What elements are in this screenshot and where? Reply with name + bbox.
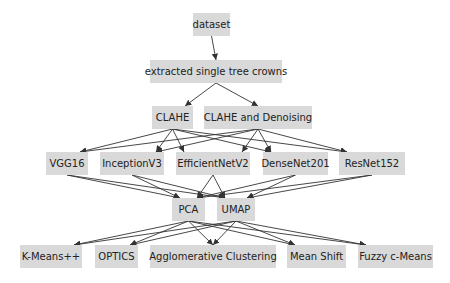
node-inceptionv3: InceptionV3 bbox=[100, 152, 164, 175]
edges-layer bbox=[0, 0, 450, 283]
node-umap: UMAP bbox=[217, 198, 255, 221]
node-clahe-dn: CLAHE and Denoising bbox=[204, 106, 312, 129]
node-optics: OPTICS bbox=[95, 245, 138, 268]
edge-clahe_dn-to-vgg16 bbox=[80, 129, 258, 152]
node-resnet152: ResNet152 bbox=[339, 152, 405, 175]
edge-clahe-to-densenet201 bbox=[173, 129, 272, 152]
node-clahe: CLAHE bbox=[152, 106, 193, 129]
edge-umap-to-meanshift bbox=[236, 221, 295, 245]
edge-umap-to-fuzzy bbox=[236, 221, 366, 245]
node-agglo: Agglomerative Clustering bbox=[150, 245, 276, 268]
node-efficientnetv2: EfficientNetV2 bbox=[176, 152, 250, 175]
node-dataset: dataset bbox=[193, 13, 230, 36]
edge-extracted-to-clahe bbox=[185, 83, 216, 106]
edge-densenet201-to-umap bbox=[247, 175, 296, 198]
node-vgg16: VGG16 bbox=[46, 152, 88, 175]
edge-clahe_dn-to-resnet152 bbox=[258, 129, 347, 152]
node-densenet201: DenseNet201 bbox=[263, 152, 328, 175]
edge-umap-to-kmeans bbox=[74, 221, 236, 245]
edge-extracted-to-clahe_dn bbox=[216, 83, 258, 106]
edge-inceptionv3-to-pca bbox=[132, 175, 180, 198]
edge-pca-to-kmeans bbox=[74, 221, 189, 245]
edge-umap-to-optics bbox=[130, 221, 236, 245]
edge-pca-to-optics bbox=[130, 221, 189, 245]
edge-resnet152-to-pca bbox=[197, 175, 372, 198]
node-kmeans: K-Means++ bbox=[20, 245, 82, 268]
node-pca: PCA bbox=[172, 198, 205, 221]
node-meanshift: Mean Shift bbox=[287, 245, 346, 268]
edge-densenet201-to-pca bbox=[197, 175, 296, 198]
edge-clahe-to-efficientnetv2 bbox=[173, 129, 185, 152]
edge-vgg16-to-pca bbox=[67, 175, 180, 198]
edge-dataset-to-extracted bbox=[212, 36, 217, 60]
node-extracted: extracted single tree crowns bbox=[150, 60, 282, 83]
node-fuzzy: Fuzzy c-Means bbox=[358, 245, 433, 268]
edge-resnet152-to-umap bbox=[247, 175, 372, 198]
